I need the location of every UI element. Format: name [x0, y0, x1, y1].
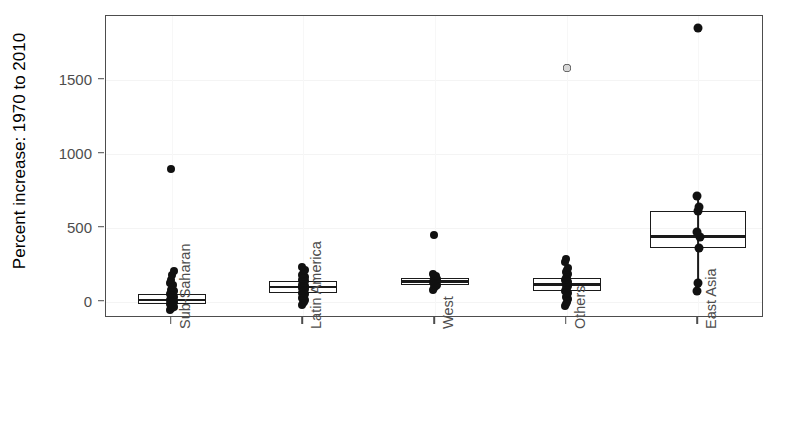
data-point [693, 228, 702, 237]
data-point [694, 244, 703, 253]
data-point [693, 23, 702, 32]
data-point [562, 255, 570, 263]
gridline-horizontal [106, 154, 762, 155]
data-point [692, 286, 701, 295]
y-axis-tick-label: 0 [0, 292, 92, 309]
y-axis-tick-mark [98, 226, 104, 228]
data-point-faded [563, 64, 570, 71]
data-point [693, 278, 702, 287]
x-axis-tick-mark [433, 317, 435, 324]
data-point [695, 203, 704, 212]
y-axis-tick-label: 1000 [0, 144, 92, 161]
data-point [430, 231, 438, 239]
x-axis-tick-label: East Asia [703, 269, 719, 329]
data-point [692, 191, 701, 200]
chart-root: Percent increase: 1970 to 2010 050010001… [0, 0, 796, 432]
data-point [167, 165, 175, 173]
data-point [298, 263, 306, 271]
x-axis-tick-label: Others [572, 285, 588, 329]
x-axis-tick-label: West [440, 296, 456, 329]
y-axis-tick-label: 1500 [0, 70, 92, 87]
x-axis-tick-label: Sub-Saharan [177, 244, 193, 329]
data-point [429, 270, 437, 278]
x-axis-tick-mark [696, 317, 698, 324]
x-axis-tick-mark [302, 317, 304, 324]
y-axis-tick-mark [98, 78, 104, 80]
y-axis-tick-mark [98, 300, 104, 302]
x-axis-tick-mark [170, 317, 172, 324]
gridline-horizontal [106, 80, 762, 81]
x-axis-tick-mark [565, 317, 567, 324]
x-axis-tick-label: Latin America [308, 241, 324, 329]
y-axis-tick-mark [98, 152, 104, 154]
plot-panel [105, 15, 763, 317]
y-axis-tick-label: 500 [0, 218, 92, 235]
